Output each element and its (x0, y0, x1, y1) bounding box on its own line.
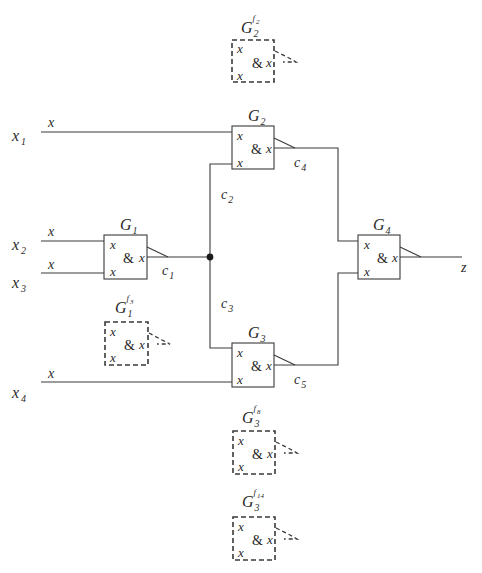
gate-g4-label: G4 (373, 216, 391, 236)
junction-dot (207, 254, 214, 261)
faulty-gate-g3-f8: G3f8 x x & x (233, 403, 297, 474)
faulty-gate-g3-f14-label: G3f14 (242, 487, 265, 513)
faulty-gate-g3-f14-input-a: x (237, 519, 244, 534)
wire-c2 (210, 164, 232, 257)
faulty-gate-g1-f3-and-symbol: & (124, 338, 135, 353)
gate-g1-input-b: x (109, 264, 116, 279)
connection-label-c1: c1 (162, 263, 174, 281)
faulty-gate-g3-f8-label: G3f8 (242, 403, 261, 429)
connection-label-c4: c4 (294, 155, 306, 173)
gate-g3-input-b: x (236, 372, 243, 387)
wire-label-x1: x (47, 115, 55, 130)
faulty-gate-g1-f3-input-a: x (109, 324, 116, 339)
faulty-gate-g3-f14-and-symbol: & (252, 533, 263, 548)
input-labels: x1 x2 x3 x4 x x x x (11, 115, 55, 404)
connection-label-c3: c3 (221, 296, 233, 314)
gate-g3-label: G3 (248, 324, 266, 344)
gate-g4-input-b: x (363, 264, 370, 279)
input-label-x4: x4 (11, 384, 26, 404)
faulty-gate-g3-f14-input-b: x (237, 545, 244, 560)
input-label-x3: x3 (11, 274, 26, 294)
gate-g4: G4 x x & x (358, 216, 421, 279)
gate-g3-input-a: x (236, 345, 243, 360)
gate-g4-and-symbol: & (377, 251, 388, 266)
faulty-gate-g3-f14-output-flag (276, 528, 297, 539)
gate-g3-and-symbol: & (251, 359, 262, 374)
faulty-gate-g1-f3-input-b: x (109, 350, 116, 365)
gate-g1-output: x (138, 250, 145, 265)
faulty-gate-g3-f14: G3f14 x x & x (233, 487, 297, 560)
faulty-gate-g1-f3-output-flag (149, 333, 170, 344)
gate-g2-output-flag (274, 138, 295, 148)
faulty-gate-g3-f14-output: x (266, 532, 273, 547)
faulty-gate-g3-f8-output-flag (276, 442, 297, 453)
gate-g2-and-symbol: & (251, 142, 262, 157)
wire-c4 (274, 148, 358, 241)
gate-g4-input-a: x (363, 237, 370, 252)
gate-g3: G3 x x & x c5 (232, 324, 306, 390)
wire-label-x2: x (47, 224, 55, 239)
connection-label-c5: c5 (294, 372, 306, 390)
gate-g1: G1 x x & x c1 (104, 216, 174, 281)
gate-g2-output: x (265, 141, 272, 156)
faulty-gate-g2-f2-input-b: x (236, 68, 243, 83)
gate-g1-and-symbol: & (123, 251, 134, 266)
wire-label-x4: x (47, 366, 55, 381)
faulty-gate-g3-f8-output: x (266, 446, 273, 461)
gate-g4-output: x (391, 250, 398, 265)
gate-g1-input-a: x (109, 237, 116, 252)
faulty-gate-g1-f3-label: G1f3 (115, 293, 134, 319)
faulty-gate-g2-f2-label: G2f2 (241, 13, 260, 39)
gate-g2-input-b: x (236, 155, 243, 170)
faulty-gate-g3-f8-input-a: x (237, 433, 244, 448)
logic-circuit-diagram: x1 x2 x3 x4 x x x x G1 x x & x c1 G2 x x… (0, 0, 482, 573)
gate-g3-output: x (265, 358, 272, 373)
input-label-x1: x1 (11, 127, 26, 147)
output-label-z: z (460, 260, 467, 275)
gate-g4-output-flag (400, 247, 421, 257)
faulty-gate-g2-f2-input-a: x (236, 41, 243, 56)
gate-g1-output-flag (147, 247, 168, 257)
gate-g1-label: G1 (120, 216, 138, 236)
wire-label-x3: x (47, 257, 55, 272)
faulty-gate-g3-f8-and-symbol: & (252, 447, 263, 462)
input-label-x2: x2 (11, 236, 26, 256)
faulty-gate-g2-f2-output: x (265, 55, 272, 70)
gate-g2: G2 x x & x c4 (232, 107, 306, 173)
gate-g3-output-flag (274, 355, 295, 365)
faulty-gate-g1-f3: G1f3 x x & x (105, 293, 170, 365)
wire-c5 (274, 273, 358, 365)
faulty-gate-g2-f2: G2f2 x x & x (232, 13, 296, 83)
gate-g2-label: G2 (248, 107, 266, 127)
faulty-gate-g2-f2-and-symbol: & (252, 56, 263, 71)
faulty-gate-g1-f3-output: x (138, 337, 145, 352)
gate-g2-input-a: x (236, 128, 243, 143)
connection-label-c2: c2 (221, 187, 233, 205)
faulty-gate-g3-f8-input-b: x (237, 459, 244, 474)
faulty-gate-g2-f2-output-flag (275, 51, 296, 62)
